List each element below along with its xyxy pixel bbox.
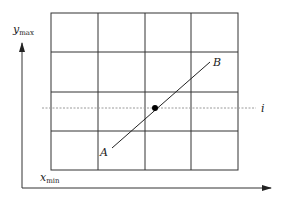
scanline-label: i (261, 102, 265, 115)
raster-diagram: ymax xmin A B i (0, 0, 283, 206)
x-min-label: xmin (40, 171, 60, 185)
segment-ab (112, 62, 210, 148)
point-a-label: A (99, 146, 108, 159)
pixel-grid (51, 13, 238, 170)
point-b-label: B (212, 56, 221, 69)
y-max-label: ymax (12, 23, 34, 37)
intersection-point (152, 105, 158, 111)
